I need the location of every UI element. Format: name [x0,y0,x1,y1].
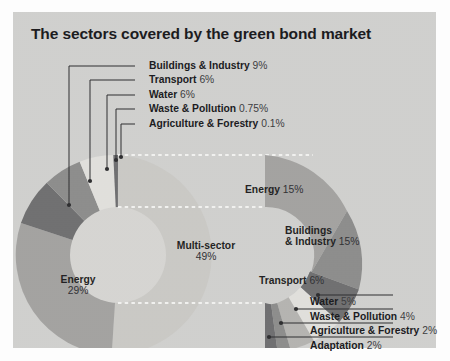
ring-label-value: 6% [309,275,324,286]
ring-label-name: Multi-sector [146,240,266,251]
callout-sub-waste-pollution[interactable]: Waste & Pollution 4% [310,310,450,325]
callout-waste-pollution[interactable]: Waste & Pollution 0.75% [149,102,409,116]
callout-value: 0.1% [261,118,284,129]
ring-label-name: Energy [245,184,280,195]
callout-value: 4% [400,311,415,322]
callout-agriculture-forestry[interactable]: Agriculture & Forestry 0.1% [149,117,409,131]
callout-transport[interactable]: Transport 6% [149,73,409,87]
leader-dot-water [105,167,109,171]
callout-label: Water [310,296,338,307]
callout-value: 2% [367,340,382,351]
callout-list-main-donut: Buildings & Industry 9% Transport 6% Wat… [149,59,409,131]
leader-dot-transport [88,179,92,183]
callout-water[interactable]: Water 6% [149,88,409,102]
callout-value: 6% [180,89,195,100]
callout-value: 5% [341,296,356,307]
callout-sub-agriculture-forestry[interactable]: Agriculture & Forestry 2% [310,324,450,339]
ring-label-name: Transport [259,275,307,286]
ring-label-buildings-industry-sub: Buildings & Industry 15% [285,225,405,247]
callout-label: Water [149,89,177,100]
callout-buildings-industry[interactable]: Buildings & Industry 9% [149,59,409,73]
callout-label: Transport [149,74,197,85]
callout-label: Agriculture & Forestry [310,325,419,336]
callout-label: Waste & Pollution [149,103,236,114]
leader-dot-sub-waste-pollution [294,307,298,311]
ring-label-energy-sub: Energy 15% [245,184,335,195]
callout-sub-water[interactable]: Water 5% [310,295,450,310]
callout-label: Waste & Pollution [310,311,397,322]
callout-value: 2% [422,325,437,336]
leader-dot-agriculture-forestry [119,155,123,159]
leader-agriculture-forestry [121,124,135,157]
ring-label-value: 49% [196,251,217,262]
chart-panel: The sectors covered by the green bond ma… [13,12,436,348]
ring-label-transport-sub: Transport 6% [259,275,369,286]
leader-dot-sub-agriculture-forestry [279,321,283,325]
ring-label-value: 15% [283,184,304,195]
leader-dot-buildings-industry [67,203,71,207]
leader-waste-pollution [116,109,135,160]
figure-canvas: The sectors covered by the green bond ma… [0,0,450,361]
callout-label: Adaptation [310,340,364,351]
ring-label-multi-sector: Multi-sector 49% [146,240,266,262]
ring-label-value: 15% [339,236,360,247]
ring-label-energy-main: Energy 29% [35,274,121,296]
callout-label: Agriculture & Forestry [149,118,258,129]
leader-dot-sub-adaptation [267,335,271,339]
callout-value: 9% [253,60,268,71]
callout-value: 6% [199,74,214,85]
ring-label-name-line1: Buildings [285,225,405,236]
ring-label-value: 29% [68,285,89,296]
callout-label: Buildings & Industry [149,60,250,71]
callout-value: 0.75% [239,103,268,114]
callout-sub-adaptation[interactable]: Adaptation 2% [310,339,450,354]
leader-dot-waste-pollution [114,158,118,162]
ring-label-name-line2: & Industry [285,236,336,247]
callout-list-breakdown-donut: Water 5% Waste & Pollution 4% Agricultur… [310,295,450,353]
ring-label-name: Energy [35,274,121,285]
